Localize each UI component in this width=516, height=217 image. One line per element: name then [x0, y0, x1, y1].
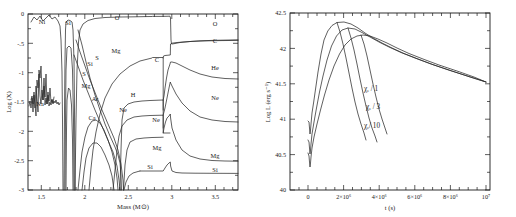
x-tick-label: 6×10⁶ [407, 193, 422, 200]
x-tick-label: 10⁷ [482, 193, 490, 200]
y-tick-label: 42 [280, 45, 286, 52]
y-tick-label: 42.5 [275, 9, 286, 16]
y-axis-tick-labels: 40 40.5 41 41.5 42 42.5 [275, 9, 286, 193]
curve-mg-right [163, 114, 238, 161]
y-tick-label: 41.5 [275, 80, 286, 87]
y-tick-label: -1 [19, 69, 24, 76]
x-axis-tick-labels: 0 2×10⁶ 4×10⁶ 6×10⁶ 8×10⁶ 10⁷ [306, 193, 490, 200]
x-axis-tick-labels: 1.5 2 2.5 3 3.5 [37, 193, 219, 200]
x-axis-ticks [299, 13, 486, 190]
x-tick-label: 4×10⁶ [372, 193, 387, 200]
y-tick-label: 0 [21, 10, 24, 17]
species-label-mg-upper: Mg [112, 47, 122, 54]
curve-label-chi-e-over-1: χₑ / 1 [364, 85, 379, 93]
curve-annotations: χₑ / 1 χₑ / 3 χₑ/ 10 [364, 85, 381, 130]
species-label-ne-right-mid: Ne [152, 116, 160, 123]
plot-frame [290, 13, 490, 190]
curve-ar [78, 120, 118, 190]
curve-ca [82, 143, 114, 190]
y-axis-title: Log L (erg s⁻¹) [264, 82, 272, 123]
y-tick-label: -2.5 [14, 157, 24, 164]
x-tick-label: 2×10⁶ [336, 193, 351, 200]
abundance-profile-panel: 0 -.5 -1 -1.5 -2 -2.5 -3 1.5 2 2.5 3 3.5… [0, 0, 258, 217]
species-label-ni: Ni [39, 18, 46, 25]
species-label-o-right: O [213, 20, 218, 27]
curve-s-core [66, 88, 73, 190]
x-tick-label: 2 [83, 193, 86, 200]
curve-chi-e-over-10 [308, 35, 486, 167]
two-panel-figure: 0 -.5 -1 -1.5 -2 -2.5 -3 1.5 2 2.5 3 3.5… [0, 0, 516, 217]
y-axis-title: Log (X) [5, 91, 13, 112]
species-label-o-top: O [115, 14, 120, 21]
y-tick-label: 40 [280, 186, 286, 193]
curve-he [163, 62, 238, 100]
curve-na [29, 74, 60, 116]
x-tick-label: 8×10⁶ [443, 193, 458, 200]
y-tick-label: 41 [280, 115, 286, 122]
y-tick-label: -1.5 [14, 98, 24, 105]
x-tick-label: 1.5 [37, 193, 45, 200]
species-label-na: Na [36, 100, 44, 107]
x-tick-label: 3.5 [211, 193, 219, 200]
x-tick-label: 3 [170, 193, 173, 200]
species-label-ca: Ca [88, 114, 95, 121]
x-axis-title: t (s) [385, 204, 395, 212]
species-label-si-upper: Si [87, 60, 93, 67]
y-axis-tick-labels: 0 -.5 -1 -1.5 -2 -2.5 -3 [14, 10, 24, 193]
x-tick-label: 2.5 [124, 193, 132, 200]
species-label-mg-lower: Mg [153, 144, 163, 151]
x-axis-title: Mass (M⊙) [117, 203, 149, 211]
y-tick-label: -2 [19, 128, 24, 135]
species-label-ar: Ar [92, 95, 100, 102]
y-tick-label: -.5 [17, 40, 24, 47]
species-label-c-mid: C [155, 56, 159, 63]
y-axis-ticks [290, 13, 490, 190]
light-curves [308, 22, 486, 167]
species-label-s-mid: S [82, 70, 86, 77]
abundance-profile-plot: 0 -.5 -1 -1.5 -2 -2.5 -3 1.5 2 2.5 3 3.5… [0, 0, 258, 217]
species-label-ne-mid: Ne [119, 106, 127, 113]
x-tick-label: 0 [306, 193, 309, 200]
curve-chi-e-over-3 [308, 28, 486, 154]
curve-label-chi-e-over-3: χₑ / 3 [366, 103, 381, 111]
species-label-si-right: Si [212, 166, 218, 173]
species-label-mg-mid: Mg [82, 82, 92, 89]
curve-c [163, 40, 238, 58]
light-curve-panel: 40 40.5 41 41.5 42 42.5 0 2×10⁶ 4×10⁶ 6×… [258, 0, 516, 217]
species-label-mg-right: Mg [211, 152, 221, 159]
curve-label-chi-e-over-10: χₑ/ 10 [364, 122, 380, 130]
species-label-si-lower: Si [147, 163, 153, 170]
species-label-he-right: He [211, 64, 219, 71]
curve-si-low [124, 171, 140, 190]
curve-ne-right [163, 82, 238, 122]
abundance-curves [29, 15, 238, 190]
curve-h-plateau [120, 100, 170, 190]
species-label-ne-right: Ne [211, 94, 219, 101]
curve-s-mid [74, 55, 120, 190]
species-labels: Ni Si O S Si S Mg C Mg Ar Ca Na H Ne Ne … [36, 14, 220, 173]
curve-si-right [140, 162, 238, 173]
y-tick-label: -3 [19, 186, 24, 193]
y-tick-label: 40.5 [275, 151, 286, 158]
species-label-si-top: Si [65, 19, 71, 26]
species-label-h: H [131, 91, 136, 98]
species-label-c-right: C [213, 37, 217, 44]
species-label-s-upper: S [95, 54, 99, 61]
light-curve-plot: 40 40.5 41 41.5 42 42.5 0 2×10⁶ 4×10⁶ 6×… [258, 0, 516, 217]
